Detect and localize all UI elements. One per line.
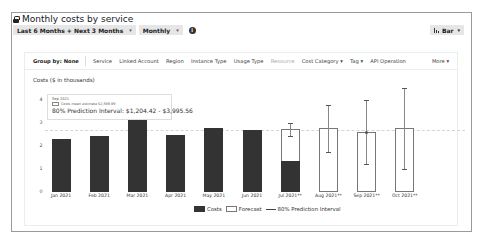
- lock-icon: [13, 16, 19, 23]
- cost-bar[interactable]: [52, 139, 71, 192]
- group-by-cost-category[interactable]: Cost Category ▾: [298, 58, 346, 64]
- y-tick-label: 3: [37, 120, 45, 125]
- group-by-linked-account[interactable]: Linked Account: [116, 58, 163, 64]
- x-tick-label: Jun 2021: [232, 193, 272, 198]
- x-tick-label: Aug 2021**: [308, 193, 348, 198]
- chart-type-dropdown[interactable]: Bar ▾: [430, 25, 464, 35]
- cost-bar[interactable]: [90, 136, 109, 192]
- controls: Last 6 Months + Next 3 Months ▾ Monthly …: [13, 25, 196, 35]
- chevron-down-icon: ▾: [129, 27, 132, 33]
- group-by-tag[interactable]: Tag ▾: [346, 58, 366, 64]
- group-by-resource: Resource: [267, 58, 298, 64]
- forecast-swatch: [226, 206, 237, 212]
- y-tick-label: 1: [37, 166, 45, 171]
- y-tick-label: 2: [37, 143, 45, 148]
- x-tick-label: Mar 2021: [117, 193, 157, 198]
- group-by-bar: Group by: None Service Linked Account Re…: [24, 52, 458, 70]
- x-tick-label: Feb 2021: [79, 193, 119, 198]
- granularity-dropdown[interactable]: Monthly ▾: [139, 25, 183, 35]
- legend-costs[interactable]: Costs: [194, 206, 222, 212]
- group-by-api-operation[interactable]: API Operation: [367, 58, 410, 64]
- bar-chart-icon: [434, 28, 440, 33]
- group-by-label: Group by: None: [24, 56, 86, 66]
- tooltip-month: Sep 2021: [52, 97, 167, 101]
- legend-interval[interactable]: 80% Prediction Interval: [266, 206, 341, 212]
- chevron-down-icon: ▾: [176, 27, 179, 33]
- tooltip-mean: Costs mean estimate $2,599.99: [52, 102, 167, 106]
- cost-bar[interactable]: [243, 130, 262, 192]
- group-by-instance-type[interactable]: Instance Type: [187, 58, 230, 64]
- time-range-label: Last 6 Months + Next 3 Months: [17, 27, 123, 34]
- info-icon[interactable]: i: [189, 27, 196, 34]
- granularity-label: Monthly: [143, 27, 170, 34]
- cost-bar[interactable]: [281, 161, 300, 192]
- group-by-more[interactable]: More ▾: [428, 58, 458, 64]
- costs-swatch: [194, 206, 205, 212]
- x-tick-label: Sep 2021**: [347, 193, 387, 198]
- cost-bar[interactable]: [166, 135, 185, 192]
- chevron-down-icon: ▾: [457, 27, 460, 33]
- tooltip-interval: 80% Prediction Interval: $1,204.42 - $3,…: [52, 107, 167, 114]
- interval-cap-high: [402, 88, 407, 89]
- group-by-region[interactable]: Region: [162, 58, 187, 64]
- chart-type-label: Bar: [442, 27, 454, 34]
- interval-whisker: [328, 105, 329, 152]
- x-tick-label: May 2021: [194, 193, 234, 198]
- group-by-service[interactable]: Service: [86, 58, 116, 64]
- legend-forecast-label: Forecast: [239, 206, 262, 212]
- legend-costs-label: Costs: [207, 206, 222, 212]
- cost-bar[interactable]: [204, 128, 223, 192]
- group-by-value: None: [64, 58, 79, 64]
- legend-interval-label: 80% Prediction Interval: [278, 206, 341, 212]
- x-tick-label: Oct 2021**: [385, 193, 425, 198]
- page-title: Monthly costs by service: [22, 14, 133, 24]
- group-by-usage-type[interactable]: Usage Type: [230, 58, 267, 64]
- legend-forecast[interactable]: Forecast: [226, 206, 262, 212]
- interval-whisker: [290, 123, 291, 136]
- interval-whisker: [404, 88, 405, 169]
- x-tick-label: Jul 2021**: [270, 193, 310, 198]
- interval-swatch: [266, 209, 276, 210]
- y-tick-label: 4: [37, 97, 45, 102]
- group-by-title: Group by:: [33, 58, 62, 64]
- interval-mean-dot: [365, 131, 368, 134]
- interval-cap-high: [326, 105, 331, 106]
- chart-tooltip: Sep 2021 Costs mean estimate $2,599.99 8…: [47, 94, 172, 120]
- interval-cap-low: [364, 164, 369, 165]
- cost-bar[interactable]: [128, 117, 147, 192]
- y-axis-label: Costs ($ in thousands): [33, 77, 95, 83]
- title-row: Monthly costs by service: [13, 14, 133, 24]
- time-range-dropdown[interactable]: Last 6 Months + Next 3 Months ▾: [13, 25, 136, 35]
- interval-cap-low: [402, 169, 407, 170]
- x-tick-label: Apr 2021: [156, 193, 196, 198]
- interval-cap-high: [288, 123, 293, 124]
- interval-cap-low: [288, 136, 293, 137]
- x-tick-label: Jan 2021: [41, 193, 81, 198]
- tooltip-mean-text: Costs mean estimate $2,599.99: [61, 102, 115, 106]
- interval-cap-high: [364, 100, 369, 101]
- chart-legend: Costs Forecast 80% Prediction Interval: [194, 206, 340, 212]
- forecast-swatch: [52, 102, 59, 106]
- interval-cap-low: [326, 152, 331, 153]
